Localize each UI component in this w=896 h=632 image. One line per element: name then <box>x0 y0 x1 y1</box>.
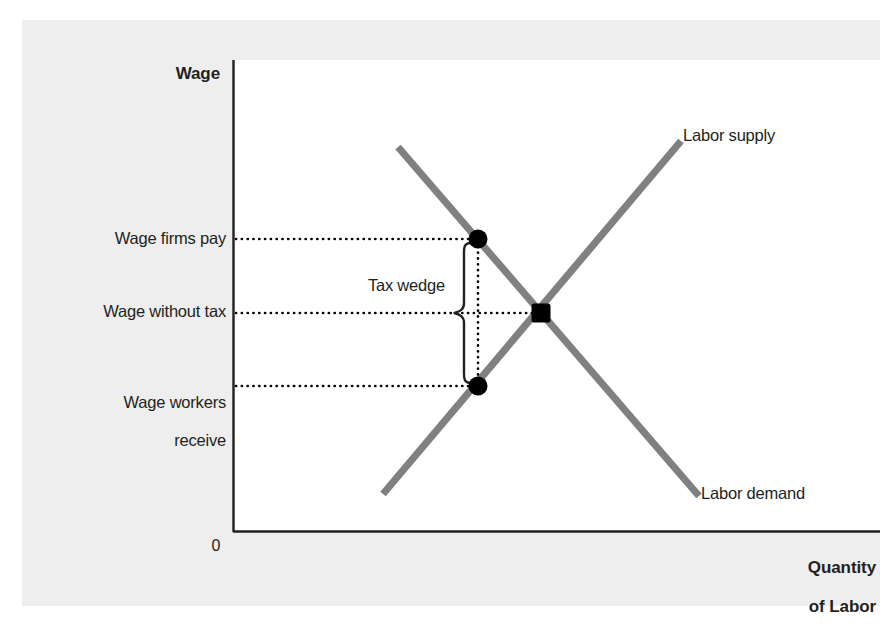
marker-wage-workers-receive[interactable] <box>469 377 488 396</box>
y-axis-label: Wage <box>108 64 220 84</box>
label-wage-workers-receive: Wage workers receive <box>66 374 226 470</box>
axis-lines <box>233 60 880 532</box>
label-wage-firms-pay: Wage firms pay <box>74 229 226 248</box>
label-wage-workers-receive-line1: Wage workers <box>124 393 226 411</box>
figure-root: Wage Quantity of Labor 0 Wage firms pay … <box>0 0 896 632</box>
label-labor-supply: Labor supply <box>683 126 775 145</box>
x-axis-label-line1: Quantity <box>808 558 876 577</box>
origin-label: 0 <box>206 537 226 556</box>
x-axis-label-line2: of Labor <box>809 597 876 616</box>
label-wage-without-tax: Wage without tax <box>66 302 226 321</box>
marker-wage-firms-pay[interactable] <box>469 230 488 249</box>
x-axis-label: Quantity of Labor <box>736 538 876 632</box>
label-tax-wedge: Tax wedge <box>330 276 445 295</box>
label-wage-workers-receive-line2: receive <box>174 431 226 449</box>
marker-wage-without-tax[interactable] <box>532 304 551 323</box>
label-labor-demand: Labor demand <box>701 484 805 503</box>
